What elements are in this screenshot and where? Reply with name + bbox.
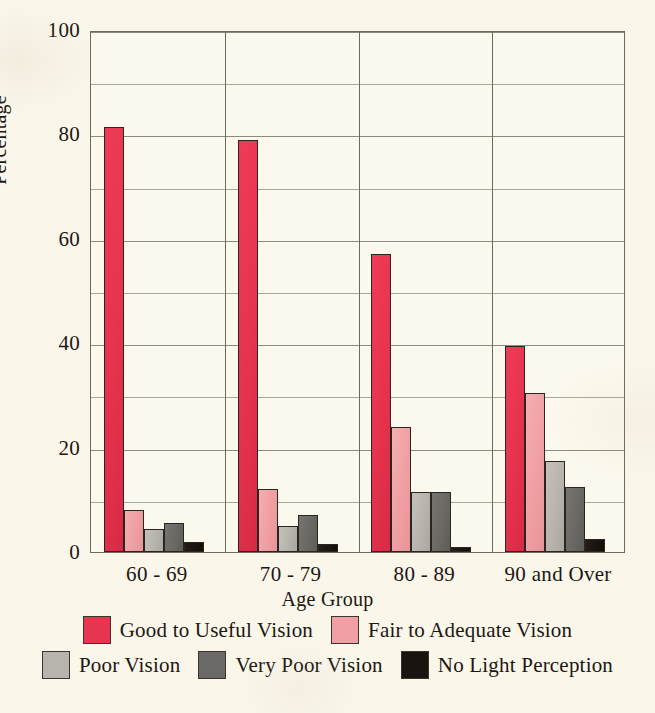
legend-label: Good to Useful Vision [120, 620, 313, 641]
bar [585, 539, 605, 552]
bar [525, 393, 545, 552]
legend-row: Good to Useful VisionFair to Adequate Vi… [0, 616, 655, 644]
legend-swatch-icon [198, 651, 226, 679]
legend-item: Good to Useful Vision [83, 616, 313, 644]
x-tick-label: 90 and Over [491, 562, 625, 587]
plot-area [90, 31, 625, 553]
legend-label: Fair to Adequate Vision [368, 620, 572, 641]
y-tick-40: 40 [14, 333, 80, 354]
bar [545, 461, 565, 552]
bar [144, 529, 164, 552]
bar-group [359, 32, 493, 552]
bar [258, 489, 278, 552]
y-tick-80: 80 [14, 124, 80, 145]
y-axis-title: Percentage [0, 50, 11, 230]
legend-item: No Light Perception [401, 651, 613, 679]
bar [184, 542, 204, 552]
bar [565, 487, 585, 552]
x-tick-label: 70 - 79 [224, 562, 358, 587]
bar [124, 510, 144, 552]
bar [238, 140, 258, 552]
bar [371, 254, 391, 552]
bar [298, 515, 318, 552]
y-tick-0: 0 [14, 542, 80, 563]
bar [318, 544, 338, 552]
y-tick-60: 60 [14, 229, 80, 250]
x-axis-title: Age Group [0, 588, 655, 611]
bar-group [225, 32, 359, 552]
legend-swatch-icon [42, 651, 70, 679]
legend-label: Very Poor Vision [235, 655, 382, 676]
bar [164, 523, 184, 552]
legend-item: Poor Vision [42, 651, 181, 679]
x-tick-label: 80 - 89 [358, 562, 492, 587]
bar [278, 526, 298, 552]
legend-row: Poor VisionVery Poor VisionNo Light Perc… [0, 651, 655, 679]
x-tick-label: 60 - 69 [90, 562, 224, 587]
y-tick-100: 100 [14, 20, 80, 41]
bar-chart: Percentage 020406080100 60 - 6970 - 7980… [0, 0, 655, 713]
legend-swatch-icon [83, 616, 111, 644]
legend-swatch-icon [401, 651, 429, 679]
bar [431, 492, 451, 552]
legend-item: Fair to Adequate Vision [331, 616, 572, 644]
legend-label: Poor Vision [79, 655, 181, 676]
bar [391, 427, 411, 552]
bar [505, 346, 525, 552]
legend-swatch-icon [331, 616, 359, 644]
y-tick-20: 20 [14, 438, 80, 459]
bar-group [91, 32, 225, 552]
bar-group [492, 32, 626, 552]
bar [451, 547, 471, 552]
legend-label: No Light Perception [438, 655, 613, 676]
legend: Good to Useful VisionFair to Adequate Vi… [0, 616, 655, 686]
bar [104, 127, 124, 552]
legend-item: Very Poor Vision [198, 651, 382, 679]
bar [411, 492, 431, 552]
